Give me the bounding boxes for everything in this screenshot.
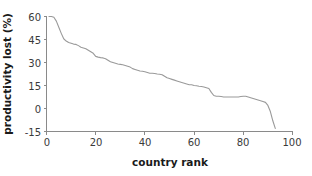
y-tick-label-45: 45 — [28, 35, 41, 46]
x-tick-label-60: 60 — [188, 137, 201, 148]
line-chart-svg: productivity lost (%) country rank 60 45… — [0, 0, 312, 176]
y-tick-label-60: 60 — [28, 12, 41, 23]
x-tick-label-80: 80 — [237, 137, 250, 148]
x-axis-title: country rank — [132, 156, 209, 168]
data-series-line — [49, 17, 275, 129]
y-tick-label-30: 30 — [28, 58, 41, 69]
chart-figure: productivity lost (%) country rank 60 45… — [0, 0, 312, 176]
y-tick-label-15: 15 — [28, 81, 41, 92]
y-tick-label-neg15: -15 — [25, 127, 41, 138]
y-axis-title: productivity lost (%) — [1, 13, 13, 135]
x-tick-marks — [47, 132, 293, 136]
x-tick-label-40: 40 — [139, 137, 152, 148]
x-tick-label-20: 20 — [90, 137, 103, 148]
x-tick-label-0: 0 — [44, 137, 50, 148]
y-tick-label-0: 0 — [35, 104, 41, 115]
x-tick-label-100: 100 — [282, 137, 301, 148]
